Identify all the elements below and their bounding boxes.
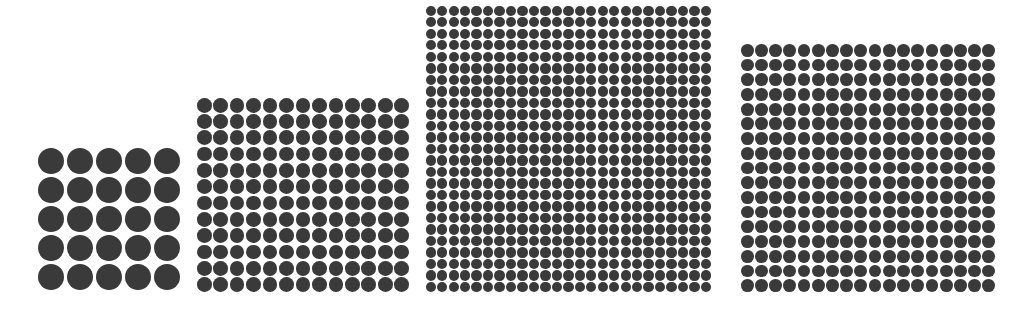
dot xyxy=(449,270,459,280)
dot xyxy=(437,201,447,211)
dot xyxy=(378,277,393,292)
dot xyxy=(460,75,470,85)
dot xyxy=(741,176,754,189)
dot xyxy=(598,236,608,246)
dot xyxy=(471,201,481,211)
dot xyxy=(197,98,212,113)
dot xyxy=(655,63,665,73)
dot xyxy=(517,190,527,200)
dot xyxy=(483,132,493,142)
dot xyxy=(609,86,619,96)
dot xyxy=(494,98,504,108)
dot xyxy=(954,206,967,219)
dot xyxy=(741,59,754,72)
dot xyxy=(494,75,504,85)
dot xyxy=(426,86,436,96)
dot xyxy=(437,155,447,165)
dot xyxy=(471,29,481,39)
dot xyxy=(345,130,360,145)
dot xyxy=(609,144,619,154)
dot xyxy=(263,130,278,145)
dot xyxy=(798,132,811,145)
dot xyxy=(563,29,573,39)
dot xyxy=(563,6,573,16)
dot xyxy=(197,212,212,227)
dot xyxy=(213,277,228,292)
dot xyxy=(563,282,573,292)
dot xyxy=(911,162,924,175)
dot xyxy=(197,245,212,260)
dot xyxy=(460,155,470,165)
dot xyxy=(609,282,619,292)
dot xyxy=(483,155,493,165)
dot xyxy=(621,213,631,223)
dot xyxy=(426,201,436,211)
dot xyxy=(586,201,596,211)
dot xyxy=(826,162,839,175)
dot xyxy=(426,75,436,85)
dot xyxy=(678,259,688,269)
dot xyxy=(897,220,910,233)
dot xyxy=(552,98,562,108)
dot xyxy=(954,117,967,130)
dot xyxy=(230,212,245,227)
dot xyxy=(666,121,676,131)
dot xyxy=(954,73,967,86)
dot xyxy=(394,130,409,145)
dot xyxy=(755,250,768,263)
dot xyxy=(655,201,665,211)
dot xyxy=(345,98,360,113)
dot xyxy=(540,86,550,96)
dot xyxy=(449,178,459,188)
dot xyxy=(741,250,754,263)
dot xyxy=(968,220,981,233)
dot xyxy=(529,282,539,292)
dot xyxy=(263,179,278,194)
dot xyxy=(506,259,516,269)
dot xyxy=(926,162,939,175)
dot xyxy=(741,132,754,145)
dot xyxy=(361,163,376,178)
dot xyxy=(460,121,470,131)
dot xyxy=(279,212,294,227)
dot xyxy=(230,196,245,211)
dot xyxy=(460,247,470,257)
dot xyxy=(655,282,665,292)
dot xyxy=(598,178,608,188)
dot xyxy=(689,17,699,27)
dot xyxy=(940,117,953,130)
dot xyxy=(621,75,631,85)
dot xyxy=(540,259,550,269)
dot xyxy=(506,201,516,211)
dot xyxy=(666,17,676,27)
dot xyxy=(621,63,631,73)
dot xyxy=(426,178,436,188)
dot xyxy=(586,178,596,188)
dot xyxy=(968,279,981,292)
dot xyxy=(437,282,447,292)
dot xyxy=(426,132,436,142)
dot xyxy=(982,191,995,204)
dot xyxy=(783,162,796,175)
dot xyxy=(329,179,344,194)
dot xyxy=(869,117,882,130)
dot xyxy=(494,270,504,280)
dot xyxy=(598,144,608,154)
dot xyxy=(741,44,754,57)
dot xyxy=(897,44,910,57)
dot xyxy=(840,73,853,86)
dot xyxy=(125,177,151,203)
dot xyxy=(926,132,939,145)
dot xyxy=(666,155,676,165)
dot xyxy=(575,144,585,154)
dot xyxy=(769,191,782,204)
dot xyxy=(449,6,459,16)
dot xyxy=(982,250,995,263)
dot xyxy=(312,212,327,227)
dot xyxy=(655,132,665,142)
dot xyxy=(460,86,470,96)
dot xyxy=(449,144,459,154)
dot xyxy=(361,179,376,194)
dot xyxy=(563,75,573,85)
dot xyxy=(968,176,981,189)
